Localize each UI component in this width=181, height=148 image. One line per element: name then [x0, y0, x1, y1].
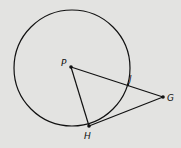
- point-J-dot: [127, 84, 129, 86]
- label-H: H: [84, 131, 91, 141]
- point-P-dot: [69, 65, 73, 69]
- point-G-dot: [161, 95, 165, 99]
- label-P: P: [61, 58, 67, 68]
- geometry-diagram: P J G H: [0, 0, 181, 148]
- point-H-dot: [87, 124, 91, 128]
- label-G: G: [167, 93, 174, 103]
